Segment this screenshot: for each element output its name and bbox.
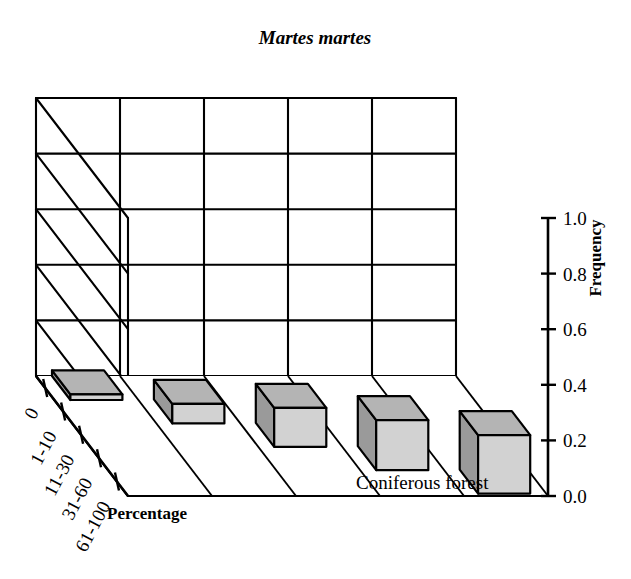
x-tick-label: 0 <box>20 404 43 422</box>
y-tick-label: 0.4 <box>563 375 587 396</box>
y-tick-label: 0.8 <box>563 264 587 285</box>
z-axis-label: Coniferous forest <box>356 472 489 493</box>
y-tick-label: 0.6 <box>563 319 587 340</box>
y-axis-label: Frequency <box>586 219 605 297</box>
bar-11-30 <box>256 384 326 447</box>
chart-canvas: Martes martes 0.00.20.40.60.81.0 01-1011… <box>0 0 631 579</box>
y-tick-label: 0.0 <box>563 486 587 507</box>
y-axis: 0.00.20.40.60.81.0 <box>541 208 587 507</box>
y-tick-label: 0.2 <box>563 430 587 451</box>
chart-3d-bar: Martes martes 0.00.20.40.60.81.0 01-1011… <box>0 0 631 579</box>
bar-31-60 <box>358 396 429 470</box>
chart-title: Martes martes <box>258 27 371 48</box>
y-tick-label: 1.0 <box>563 208 587 229</box>
x-axis-label: Percentage <box>107 504 187 523</box>
